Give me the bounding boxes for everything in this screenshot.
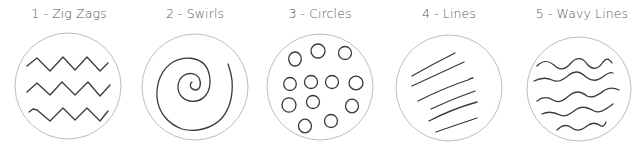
swirls-panel — [142, 34, 248, 140]
small-circle — [325, 115, 338, 128]
spiral-line — [157, 58, 232, 130]
zig-zags-outline-circle — [15, 33, 121, 139]
small-circle — [326, 76, 339, 89]
small-circle — [339, 47, 352, 60]
wavy-line — [557, 122, 606, 130]
small-circle — [284, 78, 297, 91]
small-circle — [282, 98, 296, 112]
small-circle — [307, 96, 320, 109]
pattern-diagram — [0, 0, 644, 157]
zig-zag-line — [29, 108, 108, 121]
small-circle — [349, 76, 363, 90]
diagonal-line — [436, 118, 477, 132]
circles-outline-circle — [267, 34, 373, 140]
wavy-line — [534, 72, 613, 81]
circles-panel — [267, 34, 373, 140]
zig-zag-line — [27, 82, 110, 96]
diagonal-line — [412, 53, 455, 76]
lines-panel — [396, 35, 502, 141]
diagonal-line — [429, 102, 477, 121]
diagonal-line — [418, 78, 473, 101]
wavy-line — [537, 59, 612, 69]
diagonal-line — [412, 62, 464, 86]
lines-outline-circle — [396, 35, 502, 141]
diagonal-line — [431, 91, 475, 109]
small-circle — [299, 119, 312, 133]
wavy-line — [537, 88, 619, 102]
small-circle — [289, 52, 302, 66]
wavy-lines-panel — [527, 37, 631, 141]
small-circle — [311, 44, 325, 58]
zig-zag-line — [27, 57, 108, 71]
small-circle — [305, 76, 318, 89]
small-circle — [346, 99, 359, 113]
zig-zags-panel — [15, 33, 121, 139]
wavy-line — [542, 104, 613, 116]
